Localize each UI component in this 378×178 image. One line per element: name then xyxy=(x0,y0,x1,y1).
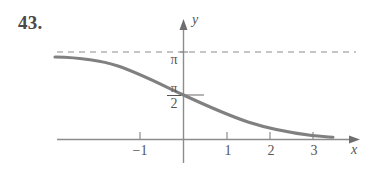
fraction-numerator: π xyxy=(166,81,182,94)
y-tick-label-pi: π xyxy=(167,52,181,68)
figure-container: 43. y x π π 2 −1 1 2 3 xyxy=(0,0,378,178)
x-tick-label-2: 2 xyxy=(260,143,282,159)
x-tick-label-neg1: −1 xyxy=(129,143,151,159)
fraction-denominator: 2 xyxy=(166,97,182,111)
y-axis-arrow-icon xyxy=(180,19,188,30)
x-axis-label: x xyxy=(351,142,357,158)
x-tick-label-3: 3 xyxy=(303,143,325,159)
y-axis-label: y xyxy=(192,12,198,28)
x-tick-label-1: 1 xyxy=(217,143,239,159)
y-tick-label-pi-over-2: π 2 xyxy=(166,81,182,111)
curve-arccot xyxy=(55,57,333,137)
